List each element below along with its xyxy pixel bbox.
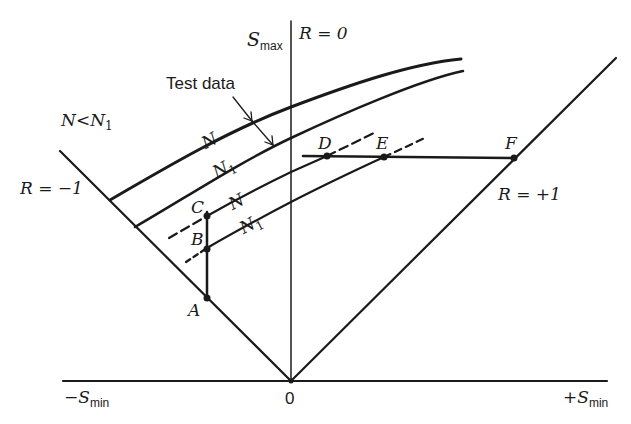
point-f-label: F xyxy=(505,135,517,152)
point-c-marker xyxy=(204,213,211,220)
y-axis-label: Smax xyxy=(247,30,283,52)
point-a-label: A xyxy=(188,302,200,319)
r-neg-one-label: R = −1 xyxy=(20,180,83,197)
point-b-marker xyxy=(204,246,211,253)
test-data-label: Test data xyxy=(166,75,235,92)
path-d-to-f xyxy=(303,156,514,158)
curve-n-upper xyxy=(110,59,461,200)
origin-marker xyxy=(289,379,294,384)
r-neg-one-line xyxy=(60,151,291,381)
point-b-label: B xyxy=(191,231,204,248)
r-pos-one-line xyxy=(291,58,616,381)
point-d-label: D xyxy=(318,135,332,152)
curve-n-lower-dashed-ext xyxy=(327,133,374,156)
point-e-marker xyxy=(381,154,388,161)
n-less-than-n1-label: N<N1 xyxy=(61,112,113,132)
curve-n1-lower-dashed-ext xyxy=(384,137,427,157)
x-pos-label: +Smin xyxy=(563,389,608,409)
test-data-arrow-1 xyxy=(233,97,252,121)
r-zero-label: R = 0 xyxy=(299,25,348,42)
origin-label: 0 xyxy=(285,390,294,407)
point-f-marker xyxy=(511,155,518,162)
goodman-diagram xyxy=(0,0,631,424)
point-c-label: C xyxy=(191,199,204,216)
point-d-marker xyxy=(324,153,331,160)
test-data-arrow-2 xyxy=(252,121,273,145)
r-pos-one-label: R = +1 xyxy=(498,186,561,203)
point-e-label: E xyxy=(376,135,388,152)
curve-n1-upper xyxy=(135,71,463,227)
point-a-marker xyxy=(204,295,211,302)
x-neg-label: −Smin xyxy=(64,389,109,409)
